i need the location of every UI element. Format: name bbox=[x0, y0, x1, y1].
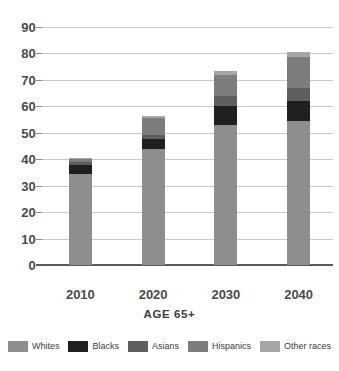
legend-swatch-icon bbox=[128, 341, 148, 352]
bar-segment-whites[interactable] bbox=[287, 121, 310, 265]
legend-label: Hispanics bbox=[212, 341, 251, 351]
bar-segment-hispanics[interactable] bbox=[214, 75, 237, 96]
bar-segment-whites[interactable] bbox=[142, 149, 165, 265]
plot-area: 9080706050403020100 2010202020302040 bbox=[0, 0, 339, 285]
bar-segment-blacks[interactable] bbox=[69, 165, 92, 174]
legend-item-asians[interactable]: Asians bbox=[128, 341, 179, 352]
legend-item-blacks[interactable]: Blacks bbox=[68, 341, 119, 352]
y-axis-tick-label: 80 bbox=[21, 46, 36, 61]
x-axis-title: AGE 65+ bbox=[0, 308, 339, 320]
legend-item-whites[interactable]: Whites bbox=[8, 341, 60, 352]
chart-legend: WhitesBlacksAsiansHispanicsOther races bbox=[0, 336, 339, 356]
legend-swatch-icon bbox=[260, 341, 280, 352]
bar-segment-whites[interactable] bbox=[214, 125, 237, 265]
legend-label: Other races bbox=[284, 341, 331, 351]
bar-segment-blacks[interactable] bbox=[214, 106, 237, 125]
legend-item-hispanics[interactable]: Hispanics bbox=[188, 341, 251, 352]
bar-segment-asians[interactable] bbox=[214, 96, 237, 107]
stacked-bar[interactable] bbox=[142, 116, 165, 265]
bar-segment-whites[interactable] bbox=[69, 174, 92, 265]
x-axis-tick-label: 2020 bbox=[139, 287, 168, 302]
y-axis-tick-label: 20 bbox=[21, 205, 36, 220]
y-axis-tick-label: 30 bbox=[21, 178, 36, 193]
legend-label: Whites bbox=[32, 341, 60, 351]
bar-segment-blacks[interactable] bbox=[142, 139, 165, 148]
legend-swatch-icon bbox=[68, 341, 88, 352]
bar-segment-hispanics[interactable] bbox=[287, 57, 310, 87]
y-axis-tick-label: 40 bbox=[21, 152, 36, 167]
bar-segment-blacks[interactable] bbox=[287, 101, 310, 121]
chart-figure: 9080706050403020100 2010202020302040 AGE… bbox=[0, 0, 339, 371]
y-axis-tick-label: 50 bbox=[21, 125, 36, 140]
y-axis-tick-label: 70 bbox=[21, 72, 36, 87]
legend-item-other-races[interactable]: Other races bbox=[260, 341, 331, 352]
y-axis-labels: 9080706050403020100 bbox=[0, 0, 42, 285]
stacked-bar[interactable] bbox=[214, 71, 237, 265]
stacked-bar[interactable] bbox=[287, 52, 310, 265]
y-axis-tick-label: 90 bbox=[21, 20, 36, 35]
x-axis-tick-label: 2010 bbox=[66, 287, 95, 302]
bar-series-group bbox=[42, 0, 333, 285]
y-axis-tick-label: 10 bbox=[21, 231, 36, 246]
x-axis-tick-label: 2040 bbox=[284, 287, 313, 302]
legend-swatch-icon bbox=[188, 341, 208, 352]
x-axis-labels: 2010202020302040 bbox=[42, 285, 333, 307]
x-axis-tick-label: 2030 bbox=[211, 287, 240, 302]
legend-label: Blacks bbox=[92, 341, 119, 351]
y-axis-tick-label: 0 bbox=[29, 258, 36, 273]
legend-label: Asians bbox=[152, 341, 179, 351]
stacked-bar[interactable] bbox=[69, 158, 92, 265]
bar-segment-asians[interactable] bbox=[287, 88, 310, 101]
y-axis-tick-label: 60 bbox=[21, 99, 36, 114]
legend-swatch-icon bbox=[8, 341, 28, 352]
bar-segment-hispanics[interactable] bbox=[142, 118, 165, 135]
